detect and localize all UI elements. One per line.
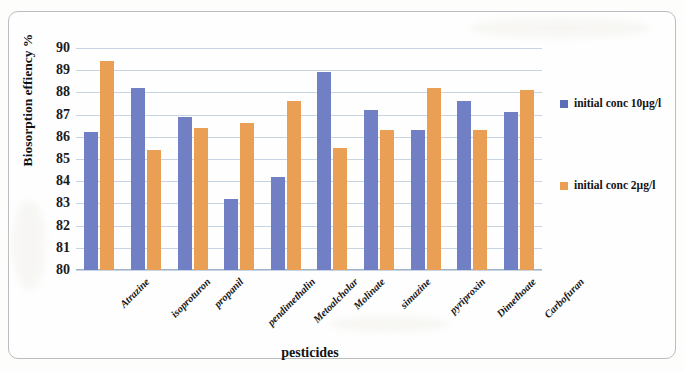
plot-area: [76, 48, 542, 270]
gridline: [76, 181, 542, 182]
bar-atrazine-series-1: [100, 61, 114, 270]
gridline: [76, 270, 542, 271]
gridline: [76, 203, 542, 204]
bar-isoproturon-series-0: [131, 88, 145, 270]
bar-metoalcholar-series-0: [271, 177, 285, 270]
y-axis-tick-label: 84: [44, 174, 70, 188]
y-axis-tick-label: 86: [44, 130, 70, 144]
gridline: [76, 137, 542, 138]
bar-metoalcholar-series-1: [287, 101, 301, 270]
bar-carbofuran-series-0: [504, 112, 518, 270]
y-axis-ticks: 8081828384858687888990: [42, 48, 70, 270]
x-axis-title: pesticides: [160, 345, 460, 361]
y-axis-tick-label: 87: [44, 108, 70, 122]
legend-color-swatch-icon: [560, 100, 568, 108]
bar-simazine-series-0: [364, 110, 378, 270]
bar-pendimethalin-series-1: [240, 123, 254, 270]
scan-artifact: [12, 200, 46, 290]
bar-dimethoate-series-1: [473, 130, 487, 270]
y-axis-tick-label: 80: [44, 263, 70, 277]
bar-pyriproxin-series-1: [427, 88, 441, 270]
bar-molinate-series-0: [317, 72, 331, 270]
gridline: [76, 226, 542, 227]
gridline: [76, 92, 542, 93]
y-axis-tick-label: 85: [44, 152, 70, 166]
bar-pyriproxin-series-0: [411, 130, 425, 270]
bar-carbofuran-series-1: [520, 90, 534, 270]
y-axis-tick-label: 88: [44, 85, 70, 99]
scan-artifact: [470, 18, 650, 38]
y-axis-tick-label: 83: [44, 196, 70, 210]
y-axis-tick-label: 82: [44, 219, 70, 233]
scan-artifact: [330, 316, 450, 332]
y-axis-tick-label: 89: [44, 63, 70, 77]
legend-entry-1[interactable]: initial conc 2µg/l: [560, 178, 655, 192]
legend-label: initial conc 2µg/l: [574, 178, 655, 192]
bar-molinate-series-1: [333, 148, 347, 270]
bar-propanil-series-0: [178, 117, 192, 270]
bar-propanil-series-1: [194, 128, 208, 270]
gridline: [76, 248, 542, 249]
y-axis-tick-label: 90: [44, 41, 70, 55]
bar-pendimethalin-series-0: [224, 199, 238, 270]
bar-atrazine-series-0: [84, 132, 98, 270]
bar-isoproturon-series-1: [147, 150, 161, 270]
bar-dimethoate-series-0: [457, 101, 471, 270]
y-axis-tick-label: 81: [44, 241, 70, 255]
legend-label: initial conc 10µg/l: [574, 96, 661, 110]
legend-entry-0[interactable]: initial conc 10µg/l: [560, 96, 661, 110]
legend-color-swatch-icon: [560, 182, 568, 190]
bar-simazine-series-1: [380, 130, 394, 270]
chart-screenshot: Biosorption effiency % 80818283848586878…: [0, 0, 684, 371]
gridline: [76, 70, 542, 71]
y-axis-title: Biosorption effiency %: [20, 0, 36, 205]
gridline: [76, 115, 542, 116]
gridline: [76, 48, 542, 49]
gridline: [76, 159, 542, 160]
